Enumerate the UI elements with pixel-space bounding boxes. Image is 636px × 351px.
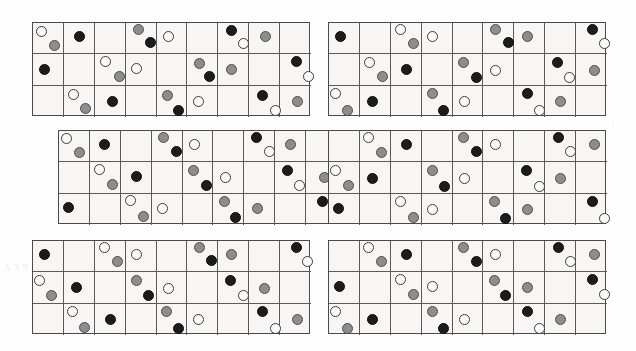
token-black-circle[interactable] [439,181,450,192]
grid-cell[interactable] [422,241,453,272]
token-black-circle[interactable] [201,180,212,191]
grid-cell[interactable] [33,86,64,117]
grid-cell[interactable] [64,241,95,272]
token-white-circle[interactable] [94,164,105,175]
token-black-circle[interactable] [173,323,184,334]
grid-cell[interactable] [280,272,311,303]
grid-cell[interactable] [453,23,484,54]
token-black-circle[interactable] [401,139,412,150]
token-black-circle[interactable] [471,72,482,83]
token-black-circle[interactable] [367,173,378,184]
token-white-circle[interactable] [599,289,610,300]
token-gray-circle[interactable] [490,24,501,35]
token-gray-circle[interactable] [112,256,123,267]
grid-cell[interactable] [483,304,514,335]
token-gray-circle[interactable] [427,165,438,176]
token-gray-circle[interactable] [343,180,354,191]
token-gray-circle[interactable] [458,57,469,68]
token-gray-circle[interactable] [555,173,566,184]
token-gray-circle[interactable] [427,306,438,317]
token-black-circle[interactable] [257,90,268,101]
grid-cell[interactable] [576,162,607,193]
token-white-circle[interactable] [303,71,314,82]
grid-cell[interactable] [244,162,275,193]
grid-cell[interactable] [275,194,306,225]
grid-cell[interactable] [360,23,391,54]
grid-cell[interactable] [483,86,514,117]
token-black-circle[interactable] [206,255,217,266]
token-white-circle[interactable] [565,256,576,267]
grid-cell[interactable] [218,86,249,117]
grid-cell[interactable] [391,86,422,117]
token-black-circle[interactable] [552,57,563,68]
grid-cell[interactable] [249,54,280,85]
grid-cell[interactable] [545,23,576,54]
token-black-circle[interactable] [503,37,514,48]
grid-cell[interactable] [280,23,311,54]
token-black-circle[interactable] [291,56,302,67]
grid-cell[interactable] [33,304,64,335]
token-gray-circle[interactable] [226,249,237,260]
token-white-circle[interactable] [534,105,545,116]
token-gray-circle[interactable] [589,139,600,150]
token-white-circle[interactable] [302,256,313,267]
grid-cell[interactable] [545,272,576,303]
token-black-circle[interactable] [471,146,482,157]
token-black-circle[interactable] [171,146,182,157]
token-gray-circle[interactable] [46,290,57,301]
token-gray-circle[interactable] [292,314,303,325]
token-black-circle[interactable] [401,64,412,75]
token-gray-circle[interactable] [114,71,125,82]
grid-cell[interactable] [422,131,453,162]
token-white-circle[interactable] [490,249,501,260]
grid-cell[interactable] [157,54,188,85]
token-black-circle[interactable] [335,31,346,42]
grid-cell[interactable] [391,304,422,335]
token-gray-circle[interactable] [259,283,270,294]
token-white-circle[interactable] [364,57,375,68]
grid-cell[interactable] [59,162,90,193]
token-white-circle[interactable] [459,173,470,184]
token-white-circle[interactable] [131,63,142,74]
token-white-circle[interactable] [264,146,275,157]
token-gray-circle[interactable] [589,65,600,76]
grid-cell[interactable] [576,86,607,117]
grid-cell[interactable] [183,194,214,225]
token-white-circle[interactable] [599,213,610,224]
token-gray-circle[interactable] [589,249,600,260]
token-gray-circle[interactable] [376,147,387,158]
token-black-circle[interactable] [438,105,449,116]
token-white-circle[interactable] [163,283,174,294]
token-gray-circle[interactable] [107,179,118,190]
token-black-circle[interactable] [401,249,412,260]
grid-cell[interactable] [218,304,249,335]
token-gray-circle[interactable] [226,64,237,75]
token-white-circle[interactable] [534,181,545,192]
grid-cell[interactable] [121,131,152,162]
token-white-circle[interactable] [238,290,249,301]
token-black-circle[interactable] [553,242,564,253]
grid-cell[interactable] [126,86,157,117]
grid-cell[interactable] [360,272,391,303]
token-black-circle[interactable] [226,25,237,36]
token-gray-circle[interactable] [292,96,303,107]
token-gray-circle[interactable] [162,90,173,101]
token-black-circle[interactable] [587,196,598,207]
grid-cell[interactable] [152,162,183,193]
token-gray-circle[interactable] [260,31,271,42]
grid-cell[interactable] [360,194,391,225]
grid-cell[interactable] [514,131,545,162]
grid-cell[interactable] [514,54,545,85]
token-white-circle[interactable] [99,242,110,253]
token-gray-circle[interactable] [133,24,144,35]
grid-cell[interactable] [329,131,360,162]
token-white-circle[interactable] [131,249,142,260]
token-white-circle[interactable] [61,133,72,144]
grid-cell[interactable] [187,272,218,303]
grid-cell[interactable] [422,54,453,85]
token-gray-circle[interactable] [377,71,388,82]
token-black-circle[interactable] [204,71,215,82]
token-gray-circle[interactable] [458,132,469,143]
token-black-circle[interactable] [99,139,110,150]
token-gray-circle[interactable] [342,323,353,334]
